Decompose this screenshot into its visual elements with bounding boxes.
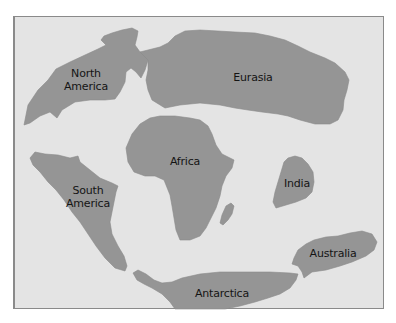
south-america-landmass [30,152,127,271]
label-eurasia: Eurasia [233,71,272,84]
label-africa: Africa [170,155,200,168]
label-antarctica: Antarctica [195,287,249,300]
label-south-america: South America [66,184,110,210]
label-north-america: North America [64,67,108,93]
madagascar-landmass [220,203,234,225]
label-australia: Australia [310,247,357,260]
africa-landmass [126,116,234,240]
label-india: India [284,177,310,190]
